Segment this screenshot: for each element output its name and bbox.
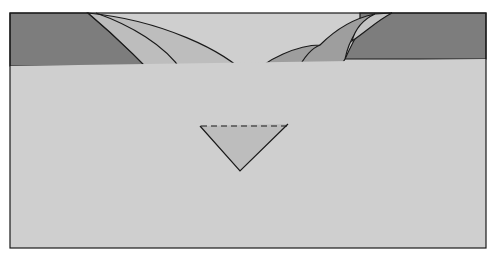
geological-cross-section-diagram: [0, 0, 495, 267]
